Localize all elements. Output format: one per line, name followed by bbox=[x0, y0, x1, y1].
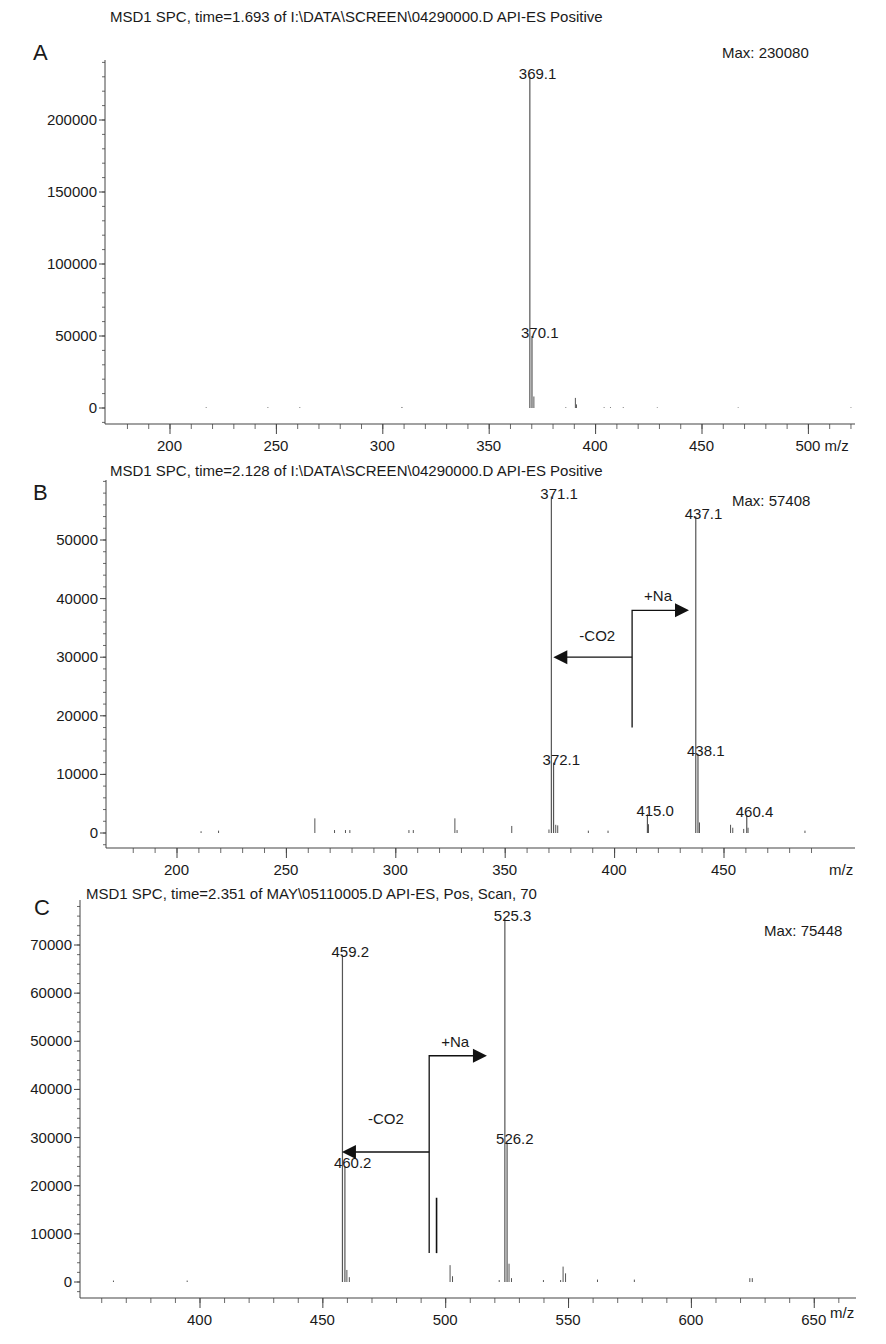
y-tick-label: 0 bbox=[90, 824, 98, 841]
loss-label: -CO2 bbox=[579, 627, 615, 644]
x-tick-label: 500 bbox=[433, 1311, 458, 1328]
y-tick-label: 30000 bbox=[30, 1129, 72, 1146]
peaks: 369.1370.1 bbox=[206, 65, 851, 408]
x-tick-label: 350 bbox=[476, 437, 501, 454]
panel-b: B MSD1 SPC, time=2.128 of I:\DATA\SCREEN… bbox=[33, 462, 855, 878]
peaks: 459.2460.2525.3526.2 bbox=[113, 907, 752, 1282]
adduct-label: +Na bbox=[441, 1033, 470, 1050]
peak-label: 459.2 bbox=[331, 943, 369, 960]
panel-letter: A bbox=[33, 40, 48, 65]
x-tick-label: 300 bbox=[370, 437, 395, 454]
y-tick-label: 30000 bbox=[56, 648, 98, 665]
peaks: 371.1372.1437.1438.1415.0460.4 bbox=[201, 485, 805, 833]
peak-label: 372.1 bbox=[543, 751, 581, 768]
max-intensity-label: Max: 57408 bbox=[732, 492, 810, 509]
max-intensity-label: Max: 230080 bbox=[722, 44, 809, 61]
spectrum-title: MSD1 SPC, time=2.128 of I:\DATA\SCREEN\0… bbox=[110, 462, 603, 479]
x-tick-label: 400 bbox=[187, 1311, 212, 1328]
arrowhead-right-icon bbox=[473, 1049, 487, 1063]
x-tick-label: 450 bbox=[711, 861, 736, 878]
x-tick-label: 250 bbox=[273, 861, 298, 878]
panel-letter: B bbox=[33, 480, 48, 505]
arrowhead-left-icon bbox=[553, 650, 567, 664]
axes: 0100002000030000400005000060000700004004… bbox=[30, 900, 856, 1328]
x-axis-label: m/z bbox=[830, 1304, 854, 1321]
x-tick-label: 250 bbox=[263, 437, 288, 454]
peak-label: 369.1 bbox=[519, 65, 557, 82]
adduct-label: +Na bbox=[644, 587, 673, 604]
y-tick-label: 0 bbox=[64, 1273, 72, 1290]
peak-label: 437.1 bbox=[685, 505, 723, 522]
y-tick-label: 70000 bbox=[30, 936, 72, 953]
x-tick-label: 200 bbox=[157, 437, 182, 454]
annotations: +Na-CO2 bbox=[342, 1033, 487, 1253]
y-tick-label: 40000 bbox=[30, 1080, 72, 1097]
panel-c: C MSD1 SPC, time=2.351 of MAY\05110005.D… bbox=[30, 885, 856, 1328]
panel-a: A MSD1 SPC, time=1.693 of I:\DATA\SCREEN… bbox=[33, 8, 855, 454]
max-intensity-label: Max: 75448 bbox=[764, 922, 842, 939]
peak-label: 526.2 bbox=[496, 1130, 534, 1147]
arrowhead-right-icon bbox=[675, 603, 689, 617]
x-tick-label: 600 bbox=[678, 1311, 703, 1328]
panel-letter: C bbox=[34, 895, 50, 920]
y-tick-label: 20000 bbox=[56, 707, 98, 724]
x-tick-label: 300 bbox=[383, 861, 408, 878]
mass-spectra-figure: A MSD1 SPC, time=1.693 of I:\DATA\SCREEN… bbox=[0, 0, 886, 1344]
x-tick-label: 350 bbox=[492, 861, 517, 878]
x-tick-label: 650 bbox=[801, 1311, 826, 1328]
y-tick-label: 50000 bbox=[55, 327, 97, 344]
adduct-arrow bbox=[632, 610, 677, 727]
y-tick-label: 50000 bbox=[56, 531, 98, 548]
y-tick-label: 60000 bbox=[30, 984, 72, 1001]
y-tick-label: 40000 bbox=[56, 590, 98, 607]
x-tick-label: 450 bbox=[310, 1311, 335, 1328]
y-tick-label: 100000 bbox=[47, 255, 97, 272]
loss-label: -CO2 bbox=[368, 1110, 404, 1127]
peak-label: 460.4 bbox=[736, 803, 774, 820]
x-tick-label: 200 bbox=[164, 861, 189, 878]
y-tick-label: 20000 bbox=[30, 1177, 72, 1194]
figure: A MSD1 SPC, time=1.693 of I:\DATA\SCREEN… bbox=[0, 0, 886, 1344]
x-tick-label: 400 bbox=[602, 861, 627, 878]
y-tick-label: 10000 bbox=[56, 765, 98, 782]
x-axis-label: m/z bbox=[829, 861, 853, 878]
peak-label: 371.1 bbox=[540, 485, 578, 502]
x-tick-label: 400 bbox=[583, 437, 608, 454]
axes: 0500001000001500002000002002503003504004… bbox=[47, 60, 855, 454]
peak-label: 415.0 bbox=[636, 802, 674, 819]
annotations: +Na-CO2 bbox=[553, 587, 689, 727]
y-tick-label: 50000 bbox=[30, 1032, 72, 1049]
peak-label: 525.3 bbox=[494, 907, 532, 924]
y-tick-label: 150000 bbox=[47, 183, 97, 200]
peak-label: 438.1 bbox=[687, 742, 725, 759]
y-tick-label: 0 bbox=[89, 399, 97, 416]
peak-label: 370.1 bbox=[521, 324, 559, 341]
x-tick-label: 550 bbox=[556, 1311, 581, 1328]
x-tick-label: 500 m/z bbox=[795, 437, 848, 454]
y-tick-label: 10000 bbox=[30, 1225, 72, 1242]
spectrum-title: MSD1 SPC, time=1.693 of I:\DATA\SCREEN\0… bbox=[110, 8, 603, 25]
x-tick-label: 450 bbox=[689, 437, 714, 454]
spectrum-title: MSD1 SPC, time=2.351 of MAY\05110005.D A… bbox=[86, 885, 537, 902]
y-tick-label: 200000 bbox=[47, 111, 97, 128]
